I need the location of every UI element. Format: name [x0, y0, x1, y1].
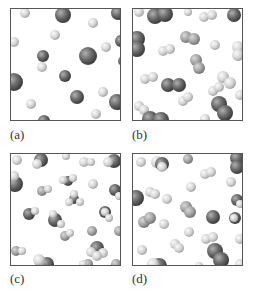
mixed-substances-illustration	[133, 154, 243, 266]
atoms-mixture-illustration	[11, 9, 121, 121]
panel-a-label: (a)	[10, 127, 24, 143]
panel-b-label: (b)	[132, 127, 147, 143]
panel-d	[132, 153, 243, 266]
compound-molecules-illustration	[11, 154, 121, 266]
panel-c-label: (c)	[10, 271, 24, 287]
diatomic-molecules-illustration	[133, 9, 243, 121]
panel-d-label: (d)	[132, 271, 147, 287]
panel-b	[132, 8, 243, 121]
panel-a	[10, 8, 121, 121]
panel-c	[10, 153, 121, 266]
